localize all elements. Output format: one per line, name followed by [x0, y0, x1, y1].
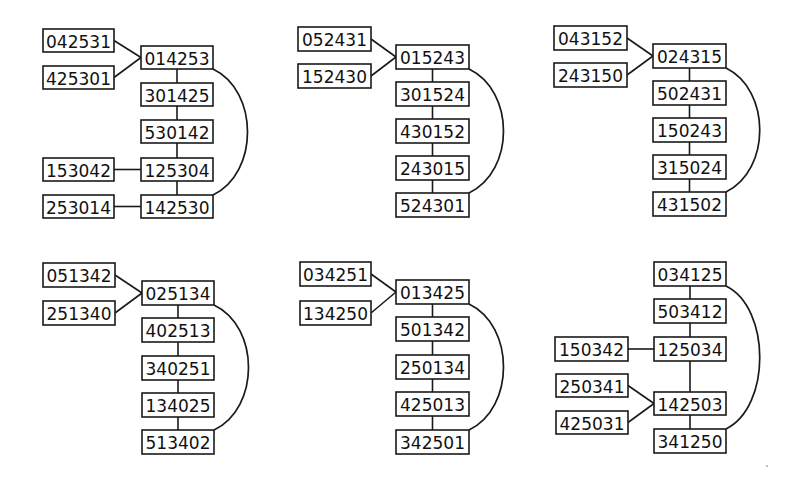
node-label: 134250 — [303, 304, 368, 324]
node-label: 024315 — [657, 47, 722, 67]
node-label: 043152 — [558, 29, 623, 49]
node-label: 430152 — [400, 122, 465, 142]
node-box: 150342 — [555, 337, 628, 361]
node-box: 243150 — [554, 63, 627, 87]
node-label: 425031 — [560, 414, 625, 434]
node-label: 150243 — [657, 121, 722, 141]
node-label: 250341 — [560, 377, 625, 397]
node-label: 301425 — [145, 86, 210, 106]
diagram-canvas: 0425314253010142533014255301421530421253… — [0, 0, 810, 480]
node-label: 134025 — [146, 396, 211, 416]
node-label: 524301 — [400, 196, 465, 216]
node-box: 251340 — [43, 301, 115, 325]
node-box: 142503 — [654, 392, 726, 415]
node-box: 052431 — [298, 27, 371, 51]
node-label: 150342 — [559, 340, 624, 360]
node-box: 513402 — [142, 430, 214, 454]
node-box: 430152 — [396, 119, 469, 143]
node-box: 013425 — [396, 280, 469, 304]
node-box: 042531 — [43, 29, 114, 52]
node-label: 125304 — [145, 161, 210, 181]
node-label: 243015 — [400, 159, 465, 179]
node-label: 051342 — [47, 266, 112, 286]
node-label: 142503 — [658, 395, 723, 415]
node-box: 340251 — [142, 356, 214, 380]
node-label: 025134 — [146, 284, 211, 304]
node-label: 142530 — [145, 198, 210, 218]
node-box: 402513 — [142, 318, 214, 342]
node-box: 025134 — [142, 281, 214, 305]
node-box: 250341 — [556, 374, 628, 397]
node-label: 153042 — [46, 161, 111, 181]
node-box: 024315 — [653, 44, 726, 68]
node-label: 015243 — [400, 48, 465, 68]
node-label: 530142 — [145, 123, 210, 143]
node-box: 301425 — [141, 83, 213, 106]
scan-speck — [766, 465, 768, 467]
node-box: 342501 — [396, 430, 469, 454]
node-box: 014253 — [141, 46, 213, 69]
node-box: 125034 — [654, 337, 726, 361]
node-box: 134250 — [300, 301, 371, 325]
node-label: 301524 — [400, 85, 465, 105]
node-label: 013425 — [400, 283, 465, 303]
node-label: 251340 — [47, 304, 112, 324]
node-box: 524301 — [396, 193, 469, 217]
node-box: 142530 — [141, 195, 213, 218]
node-label: 152430 — [302, 67, 367, 87]
node-box: 134025 — [142, 393, 214, 417]
node-label: 402513 — [146, 321, 211, 341]
node-label: 340251 — [146, 359, 211, 379]
node-box: 243015 — [396, 156, 469, 180]
node-label: 513402 — [146, 433, 211, 453]
node-label: 042531 — [46, 32, 111, 52]
node-box: 253014 — [43, 195, 114, 218]
node-box: 425031 — [556, 411, 628, 434]
node-box: 043152 — [554, 26, 627, 50]
node-box: 152430 — [298, 64, 371, 88]
node-box: 431502 — [653, 192, 726, 216]
node-box: 150243 — [653, 118, 726, 142]
node-box: 315024 — [653, 155, 726, 179]
node-label: 253014 — [46, 198, 111, 218]
node-label: 125034 — [658, 340, 723, 360]
node-box: 153042 — [43, 158, 114, 181]
node-label: 243150 — [558, 66, 623, 86]
node-label: 250134 — [400, 358, 465, 378]
node-label: 052431 — [302, 30, 367, 50]
node-label: 431502 — [657, 195, 722, 215]
node-label: 034125 — [658, 265, 723, 285]
node-box: 125304 — [141, 158, 213, 181]
node-box: 425301 — [43, 66, 114, 89]
node-label: 034251 — [303, 265, 368, 285]
node-box: 501342 — [396, 317, 469, 341]
node-box: 425013 — [396, 392, 469, 416]
node-label: 014253 — [145, 49, 210, 69]
node-box: 530142 — [141, 120, 213, 143]
node-label: 503412 — [658, 302, 723, 322]
node-box: 015243 — [396, 45, 469, 69]
node-label: 425013 — [400, 395, 465, 415]
node-box: 502431 — [653, 81, 726, 105]
node-label: 342501 — [400, 433, 465, 453]
node-box: 301524 — [396, 82, 469, 106]
node-label: 501342 — [400, 320, 465, 340]
node-box: 503412 — [654, 299, 726, 323]
node-label: 425301 — [46, 69, 111, 89]
node-box: 341250 — [654, 429, 726, 453]
node-box: 034125 — [654, 262, 726, 286]
node-box: 250134 — [396, 355, 469, 379]
node-box: 034251 — [300, 262, 371, 286]
node-box: 051342 — [43, 263, 115, 287]
node-label: 315024 — [657, 158, 722, 178]
node-label: 502431 — [657, 84, 722, 104]
node-label: 341250 — [658, 432, 723, 452]
